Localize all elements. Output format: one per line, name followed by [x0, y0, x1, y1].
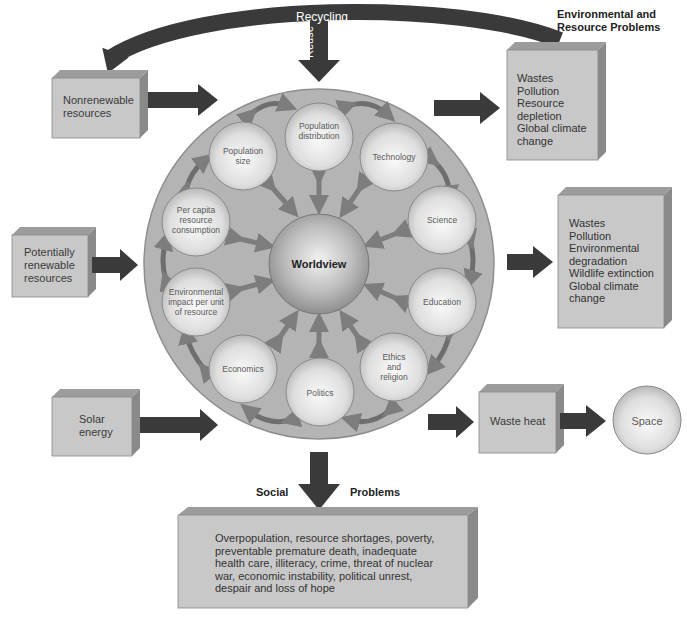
input-label-nonrenewable: Nonrenewable resources — [63, 94, 134, 120]
arrow-waste-heat — [428, 406, 474, 438]
factor-economics: Economics — [222, 364, 264, 374]
arrow-potentially-renewable — [92, 249, 138, 281]
arrow-env-problems-2 — [507, 246, 553, 278]
waste-heat-label: Waste heat — [490, 415, 545, 428]
factor-ethics-religion: Ethics and religion — [380, 352, 407, 382]
factor-environmental-impact: Environmental impact per unit of resourc… — [168, 287, 224, 317]
factor-education: Education — [423, 297, 461, 307]
factor-per-capita-consumption: Per capita resource consumption — [172, 205, 220, 235]
worldview-label: Worldview — [292, 259, 347, 269]
input-label-solar: Solar energy — [79, 413, 113, 439]
arrow-solar — [140, 409, 218, 441]
env-problems-box1-text: Wastes Pollution Resource depletion Glob… — [517, 72, 587, 147]
factor-population-size: Population size — [223, 146, 263, 166]
social-problems-text: Overpopulation, resource shortages, pove… — [215, 532, 434, 595]
arrow-social-problems — [298, 452, 340, 510]
arrow-nonrenewable — [148, 84, 218, 116]
reuse-label: Reuse — [303, 26, 316, 58]
arrow-space — [560, 405, 606, 437]
factor-politics: Politics — [307, 388, 334, 398]
arrow-env-problems-1 — [434, 92, 500, 124]
problems-label: Problems — [350, 486, 400, 499]
factor-technology: Technology — [372, 152, 415, 162]
env-problems-box2-text: Wastes Pollution Environmental degradati… — [569, 217, 654, 305]
space-label: Space — [631, 416, 662, 426]
env-problems-heading: Environmental and Resource Problems — [557, 8, 660, 34]
social-label: Social — [256, 486, 288, 499]
factor-science: Science — [427, 215, 457, 225]
factor-population-distribution: Population distribution — [298, 121, 339, 141]
input-label-potentially-renewable: Potentially renewable resources — [24, 246, 75, 285]
recycling-label: Recycling — [296, 11, 348, 24]
